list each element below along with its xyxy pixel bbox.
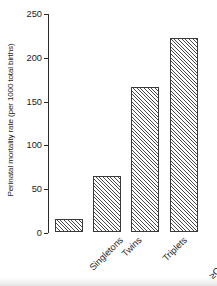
x-tick-label-quadruplets: ≥Quadruplets [207, 235, 217, 281]
y-tick-label-0: 0 [37, 228, 42, 238]
x-tick-label-singletons: Singletons [88, 235, 125, 272]
plot-area: 0 50 100 150 200 250 [48, 14, 208, 232]
y-axis-title: Perinatal mortality rate (per 1000 total… [6, 44, 15, 197]
y-tick-label-200: 200 [26, 53, 42, 63]
y-tick-label-150: 150 [26, 97, 42, 107]
page-edge-artifact [0, 278, 217, 286]
bar-singletons [55, 219, 83, 232]
y-tick-label-100: 100 [26, 140, 42, 150]
chart-figure: Perinatal mortality rate (per 1000 total… [0, 0, 217, 286]
x-tick-label-triplets: Triplets [161, 235, 189, 263]
bar-quadruplets [170, 38, 198, 232]
y-tick-label-50: 50 [32, 184, 42, 194]
y-axis-title-container: Perinatal mortality rate (per 1000 total… [0, 0, 20, 240]
bar-triplets [131, 87, 159, 232]
x-tick-label-twins: Twins [120, 235, 144, 259]
y-axis-line [48, 14, 49, 233]
bar-twins [93, 176, 121, 232]
y-tick-label-250: 250 [26, 9, 42, 19]
